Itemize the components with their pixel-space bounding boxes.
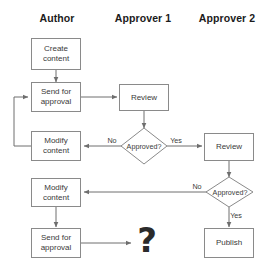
node-approved-2-label[interactable]: Approved? xyxy=(213,188,248,197)
node-publish[interactable]: Publish xyxy=(204,228,254,258)
lane-header-approver-2: Approver 2 xyxy=(196,12,258,24)
edge-label-approved-1-yes: Yes xyxy=(170,136,182,145)
unknown-next-step-icon: ? xyxy=(137,223,157,257)
node-modify-content-2[interactable]: Modify content xyxy=(31,178,81,207)
node-send-for-approval-2[interactable]: Send for approval xyxy=(31,228,81,258)
node-create-content[interactable]: Create content xyxy=(31,38,81,70)
node-review-1[interactable]: Review xyxy=(119,84,169,111)
edge-label-approved-2-no: No xyxy=(192,182,201,191)
node-send-for-approval-1[interactable]: Send for approval xyxy=(31,82,81,112)
edge-modify1-to-send1-loop xyxy=(14,97,31,146)
edge-label-approved-1-no: No xyxy=(107,136,116,145)
lane-header-author: Author xyxy=(32,12,82,24)
lane-header-approver-1: Approver 1 xyxy=(112,12,174,24)
node-approved-1-label[interactable]: Approved? xyxy=(127,142,162,151)
edge-label-approved-2-yes: Yes xyxy=(230,211,242,220)
node-review-2[interactable]: Review xyxy=(204,133,254,161)
node-modify-content-1[interactable]: Modify content xyxy=(31,131,81,161)
